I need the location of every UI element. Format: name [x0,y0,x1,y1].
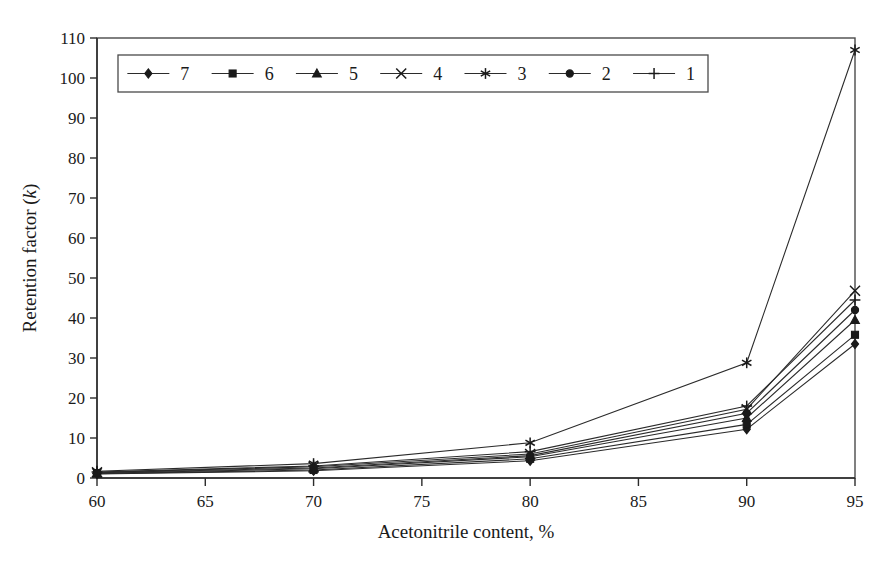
x-axis-title: Acetonitrile content, % [378,521,555,542]
legend-label-1: 1 [686,64,695,84]
legend-label-7: 7 [180,64,189,84]
y-tick-label: 30 [68,349,85,368]
x-tick-label: 65 [197,492,214,511]
y-axis-title: Retention factor (k) [19,184,41,333]
chart-figure: 0102030405060708090100110 60657075808590… [0,0,894,563]
y-tick-label: 90 [68,109,85,128]
y-tick-label: 50 [68,269,85,288]
x-tick-label: 70 [305,492,322,511]
y-tick-label: 20 [68,389,85,408]
data-point-2-95 [851,306,858,313]
y-tick-label: 110 [60,29,85,48]
legend-label-3: 3 [517,64,526,84]
y-tick-label: 100 [60,69,86,88]
legend-label-2: 2 [602,64,611,84]
y-tick-label: 40 [68,309,85,328]
data-point-6-95 [852,331,859,338]
y-tick-label: 0 [77,469,86,488]
legend-marker-circle [566,70,573,77]
legend-label-5: 5 [349,64,358,84]
retention-factor-line-chart: 0102030405060708090100110 60657075808590… [0,0,894,563]
legend-label-6: 6 [265,64,274,84]
y-tick-label: 80 [68,149,85,168]
x-tick-label: 60 [89,492,106,511]
x-tick-label: 85 [630,492,647,511]
chart-legend: 7654321 [118,55,708,92]
x-tick-label: 90 [738,492,755,511]
y-tick-label: 70 [68,189,85,208]
x-tick-label: 75 [413,492,430,511]
legend-label-4: 4 [433,64,442,84]
legend-marker-square [229,70,236,77]
x-tick-label: 95 [847,492,864,511]
x-tick-label: 80 [522,492,539,511]
y-tick-label: 60 [68,229,85,248]
y-tick-label: 10 [68,429,85,448]
